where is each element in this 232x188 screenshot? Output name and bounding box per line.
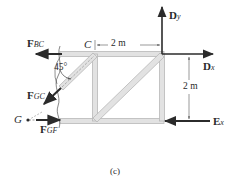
label-horizontal-dimension: 2 m [111,39,126,49]
g-gc-dashed-line [30,112,42,119]
label-e-x: Ex [213,116,224,127]
top-chord-member [60,52,164,57]
diagonal-member [93,53,164,122]
bottom-chord-member [60,119,164,124]
label-f-gf: FGF [40,124,57,135]
truss-free-body-diagram: FBC C 45° FGC G FGF Dy Dx Ex 2 m 2 m (c) [0,0,232,188]
label-point-c: C [84,39,91,50]
label-f-gc: FGC [27,90,45,101]
right-vertical-member [160,54,165,121]
truss-members [59,52,165,124]
label-point-g: G [14,114,22,125]
label-f-bc: FBC [27,38,44,49]
label-d-x: Dx [203,61,215,72]
middle-vertical-member [93,54,98,121]
label-d-y: Dy [169,10,181,21]
figure-caption: (c) [110,167,120,176]
label-vertical-dimension: 2 m [183,82,198,92]
label-angle-45: 45° [54,63,67,73]
horizontal-dimension [95,40,160,50]
